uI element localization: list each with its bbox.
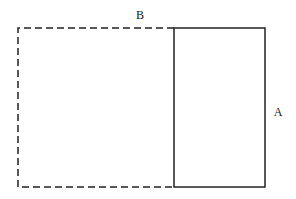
label-a: A bbox=[274, 105, 283, 119]
solid-rectangle bbox=[174, 28, 265, 187]
label-b: B bbox=[136, 8, 144, 22]
diagram-canvas: B A bbox=[0, 0, 296, 199]
dashed-rectangle bbox=[18, 28, 174, 187]
